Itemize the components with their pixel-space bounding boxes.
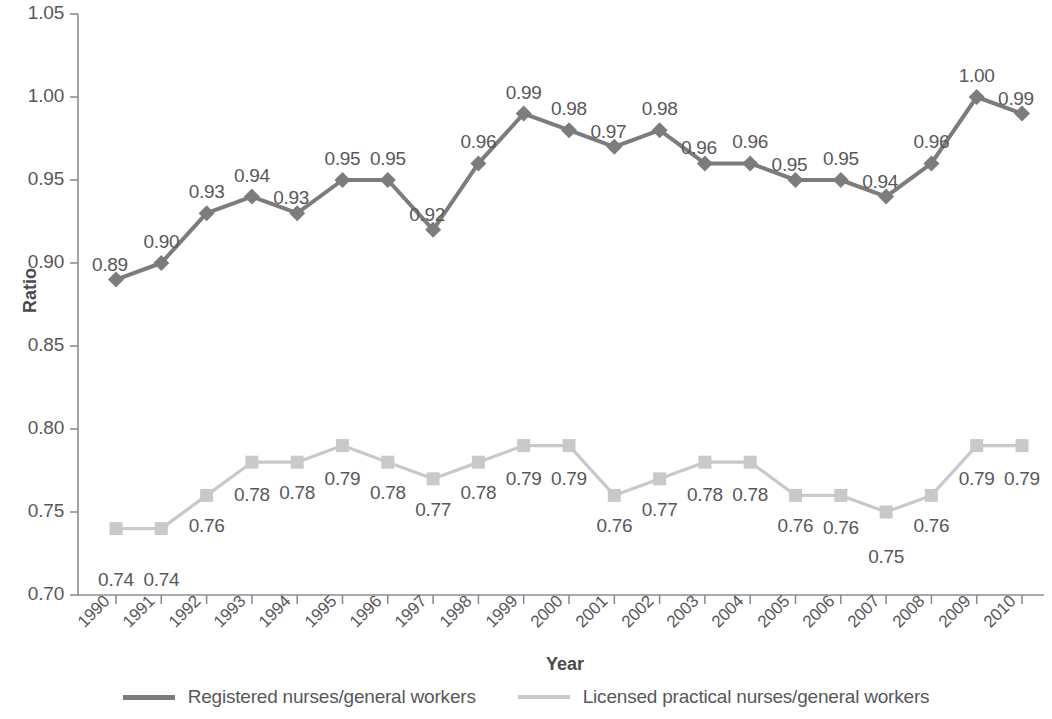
data-point-label: 0.95 <box>772 154 808 176</box>
data-point-label: 0.95 <box>823 148 859 170</box>
x-axis-title: Year <box>0 654 1052 675</box>
data-point-label: 0.76 <box>189 515 225 537</box>
data-point-label: 0.76 <box>778 515 814 537</box>
legend-color-swatch <box>123 695 175 700</box>
data-point-label: 0.93 <box>189 181 225 203</box>
data-point-label: 0.76 <box>914 515 950 537</box>
y-axis-tick-label: 0.70 <box>0 583 64 605</box>
data-point-label: 0.79 <box>551 468 587 490</box>
data-point-label: 0.74 <box>98 569 134 591</box>
data-point-label: 0.95 <box>370 148 406 170</box>
legend-entry[interactable]: Registered nurses/general workers <box>123 686 476 708</box>
data-point-label: 0.96 <box>681 137 717 159</box>
data-point-label: 0.90 <box>143 231 179 253</box>
data-point-label: 0.76 <box>596 515 632 537</box>
data-point-label: 0.78 <box>279 482 315 504</box>
data-point-label: 0.74 <box>143 569 179 591</box>
data-point-label: 0.93 <box>273 187 309 209</box>
data-point-label: 0.94 <box>234 165 270 187</box>
chart-legend: Registered nurses/general workersLicense… <box>0 686 1052 708</box>
data-point-label: 0.99 <box>998 88 1034 110</box>
y-axis-title: Ratio <box>20 261 41 321</box>
y-axis-tick-label: 0.80 <box>0 417 64 439</box>
data-point-label: 0.79 <box>959 468 995 490</box>
data-point-label: 0.79 <box>1004 468 1040 490</box>
data-point-label: 0.96 <box>914 131 950 153</box>
data-point-label: 1.00 <box>959 65 995 87</box>
data-point-label: 0.98 <box>551 98 587 120</box>
y-axis-tick-label: 1.05 <box>0 2 64 24</box>
y-axis-tick-label: 0.85 <box>0 334 64 356</box>
y-axis-tick-label: 0.95 <box>0 168 64 190</box>
data-point-label: 0.97 <box>590 121 626 143</box>
data-point-label: 0.77 <box>642 499 678 521</box>
data-point-label: 0.94 <box>862 171 898 193</box>
data-point-label: 0.92 <box>409 204 445 226</box>
data-point-label: 0.99 <box>506 82 542 104</box>
data-point-label: 0.96 <box>461 131 497 153</box>
chart-container: 0.700.750.800.850.900.951.001.05 1990199… <box>0 0 1052 719</box>
data-point-label: 0.75 <box>868 546 904 568</box>
legend-label: Registered nurses/general workers <box>188 686 476 708</box>
data-point-label: 0.78 <box>370 482 406 504</box>
y-axis-tick-label: 0.75 <box>0 500 64 522</box>
data-point-label: 0.78 <box>234 484 270 506</box>
legend-label: Licensed practical nurses/general worker… <box>583 686 930 708</box>
data-point-label: 0.76 <box>823 517 859 539</box>
data-point-label: 0.96 <box>732 131 768 153</box>
data-point-label: 0.78 <box>461 482 497 504</box>
y-axis-tick-label: 1.00 <box>0 85 64 107</box>
data-point-label: 0.78 <box>732 484 768 506</box>
data-point-label: 0.79 <box>325 468 361 490</box>
data-point-label: 0.78 <box>687 484 723 506</box>
data-point-label: 0.79 <box>506 468 542 490</box>
data-point-label: 0.77 <box>415 499 451 521</box>
data-point-label: 0.95 <box>325 148 361 170</box>
legend-color-swatch <box>518 695 570 699</box>
legend-entry[interactable]: Licensed practical nurses/general worker… <box>518 686 930 708</box>
data-point-label: 0.89 <box>92 254 128 276</box>
data-point-label: 0.98 <box>642 98 678 120</box>
